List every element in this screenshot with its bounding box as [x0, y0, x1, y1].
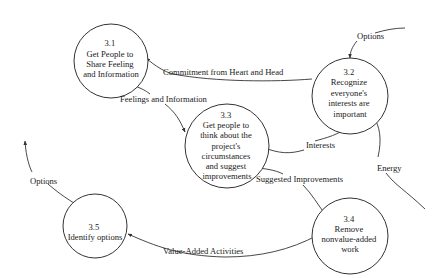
process-3-2: 3.2 Recognize everyone's interests are i… [312, 58, 388, 134]
flow-energy-arrow [386, 173, 425, 209]
data-flow-diagram: 3.1 Get People to Share Feeling and Info… [0, 0, 446, 278]
flow-suggested-arrow-2 [303, 185, 325, 214]
flow-label-commitment: Commitment from Heart and Head [163, 67, 284, 77]
flow-options-left-arrow-2 [25, 141, 32, 172]
process-3-1: 3.1 Get People to Share Feeling and Info… [74, 24, 148, 98]
process-3-5: 3.5 Identify options [63, 194, 127, 258]
flow-label-options-left: Options [30, 176, 58, 186]
flow-label-energy: Energy [377, 163, 402, 173]
flow-feelings-arrow-2 [165, 104, 185, 132]
process-3-4: 3.4 Remove nonvalue-added work [312, 198, 388, 274]
flow-label-suggested: Suggested Improvements [256, 174, 344, 184]
flow-label-feelings: Feelings and Information [120, 94, 208, 104]
flow-options-top-arrow-2 [350, 41, 357, 58]
flow-label-options-top: Options [357, 31, 385, 41]
flow-label-interests: Interests [306, 140, 336, 150]
flow-label-value-added: Value-Added Activities [163, 246, 244, 256]
